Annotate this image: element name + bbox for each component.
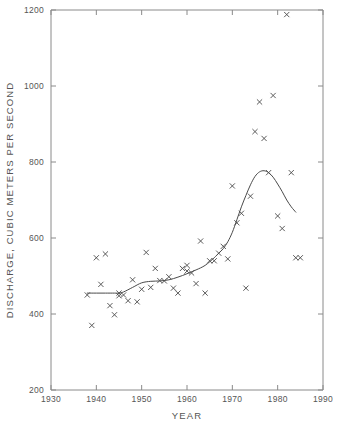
data-point-x-marker (293, 255, 298, 260)
data-point-x-marker (280, 226, 285, 231)
discharge-vs-year-chart: 1930194019501960197019801990 20040060080… (0, 0, 340, 425)
data-point-x-marker (171, 286, 176, 291)
data-point-x-marker (175, 291, 180, 296)
axes-group (51, 10, 323, 390)
x-tick-label: 1940 (86, 394, 106, 404)
tick-marks-group (51, 10, 323, 390)
data-point-x-marker (284, 12, 289, 17)
y-tick-label: 800 (29, 157, 44, 167)
y-tick-label: 1000 (24, 81, 44, 91)
data-point-x-marker (135, 299, 140, 304)
data-point-x-marker (107, 303, 112, 308)
data-point-x-marker (144, 250, 149, 255)
data-point-x-marker (203, 291, 208, 296)
data-point-x-marker (153, 266, 158, 271)
plot-canvas: 1930194019501960197019801990 20040060080… (0, 0, 340, 425)
x-axis-title: YEAR (172, 410, 202, 421)
data-point-x-marker (261, 136, 266, 141)
data-point-x-marker (166, 274, 171, 279)
data-point-x-marker (98, 282, 103, 287)
y-tick-label: 1200 (24, 5, 44, 15)
data-point-x-marker (184, 263, 189, 268)
data-point-x-marker (125, 298, 130, 303)
smoothed-trend-line (87, 171, 296, 293)
data-point-x-marker (121, 292, 126, 297)
data-point-x-marker (116, 293, 121, 298)
x-tick-label: 1970 (222, 394, 242, 404)
data-point-x-marker (298, 255, 303, 260)
y-tick-label: 400 (29, 309, 44, 319)
trend-line-path (87, 171, 296, 293)
data-point-x-marker (216, 251, 221, 256)
data-point-x-marker (103, 251, 108, 256)
data-point-x-marker (130, 277, 135, 282)
x-tick-label: 1960 (177, 394, 197, 404)
data-point-x-marker (89, 323, 94, 328)
y-tick-label: 600 (29, 233, 44, 243)
x-tick-label: 1930 (41, 394, 61, 404)
data-point-x-marker (266, 170, 271, 175)
data-point-x-marker (271, 93, 276, 98)
x-tick-label: 1950 (132, 394, 152, 404)
data-point-x-marker (198, 238, 203, 243)
y-axis-title: DISCHARGE, CUBIC METERS PER SECOND (4, 82, 15, 318)
data-point-markers (85, 12, 303, 328)
data-point-x-marker (248, 194, 253, 199)
data-point-x-marker (180, 266, 185, 271)
data-point-x-marker (230, 183, 235, 188)
x-tick-label: 1980 (268, 394, 288, 404)
y-axis-tick-labels: 20040060080010001200 (24, 5, 44, 395)
data-point-x-marker (212, 258, 217, 263)
data-point-x-marker (94, 255, 99, 260)
y-tick-label: 200 (29, 385, 44, 395)
data-point-x-marker (148, 285, 153, 290)
x-axis-tick-labels: 1930194019501960197019801990 (41, 394, 333, 404)
axis-frame (51, 10, 323, 390)
data-point-x-marker (275, 213, 280, 218)
data-point-x-marker (193, 281, 198, 286)
data-point-x-marker (289, 170, 294, 175)
data-point-x-marker (139, 287, 144, 292)
data-point-x-marker (257, 99, 262, 104)
data-point-x-marker (252, 129, 257, 134)
x-tick-label: 1990 (313, 394, 333, 404)
data-point-x-marker (225, 256, 230, 261)
data-point-x-marker (184, 268, 189, 273)
data-point-x-marker (243, 286, 248, 291)
data-point-x-marker (112, 312, 117, 317)
